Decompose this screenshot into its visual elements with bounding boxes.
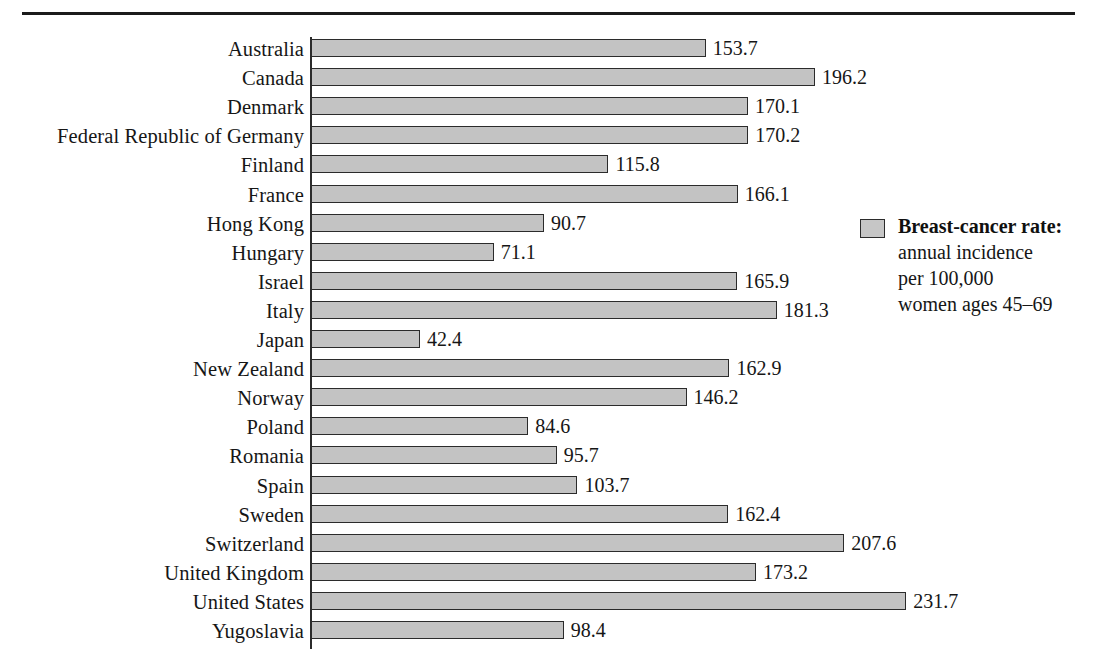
- bar-value-label: 90.7: [551, 212, 586, 234]
- bar-value-label: 196.2: [822, 66, 867, 88]
- bar: [311, 68, 815, 86]
- legend-line-1: annual incidence: [898, 241, 1033, 264]
- bar-row: Finland115.8: [0, 154, 1099, 183]
- bar: [311, 243, 494, 261]
- bar-row: Spain103.7: [0, 475, 1099, 504]
- bar-row: Federal Republic of Germany170.2: [0, 125, 1099, 154]
- category-label: Japan: [0, 329, 304, 352]
- category-label: Yugoslavia: [0, 620, 304, 643]
- bar-value-label: 173.2: [763, 561, 808, 583]
- bar-value-label: 115.8: [615, 153, 659, 175]
- bar: [311, 534, 844, 552]
- bar: [311, 126, 748, 144]
- category-label: Israel: [0, 271, 304, 294]
- bar-value-label: 98.4: [571, 619, 606, 641]
- bar-value-label: 71.1: [501, 241, 536, 263]
- bar-row: United States231.7: [0, 591, 1099, 620]
- legend-swatch: [860, 219, 885, 238]
- bar-value-label: 170.1: [755, 95, 800, 117]
- bar-row: Romania95.7: [0, 445, 1099, 474]
- bar-value-label: 170.2: [755, 124, 800, 146]
- bar: [311, 272, 737, 290]
- bar: [311, 185, 738, 203]
- bar-row: Japan42.4: [0, 329, 1099, 358]
- legend-title: Breast-cancer rate:: [898, 215, 1062, 238]
- bar-value-label: 181.3: [784, 299, 829, 321]
- bar-row: Australia153.7: [0, 38, 1099, 67]
- bar: [311, 301, 777, 319]
- bar: [311, 97, 748, 115]
- category-label: Australia: [0, 38, 304, 61]
- legend-line-2: per 100,000: [898, 267, 994, 290]
- bar-row: New Zealand162.9: [0, 358, 1099, 387]
- bar: [311, 155, 608, 173]
- category-label: Spain: [0, 475, 304, 498]
- bar-row: Poland84.6: [0, 416, 1099, 445]
- category-label: Canada: [0, 67, 304, 90]
- category-label: United States: [0, 591, 304, 614]
- bar-row: Canada196.2: [0, 67, 1099, 96]
- bar-value-label: 146.2: [694, 386, 739, 408]
- bar: [311, 563, 756, 581]
- bar-row: Norway146.2: [0, 387, 1099, 416]
- bar: [311, 476, 577, 494]
- category-label: Poland: [0, 416, 304, 439]
- bar: [311, 417, 528, 435]
- category-label: United Kingdom: [0, 562, 304, 585]
- category-label: Romania: [0, 445, 304, 468]
- bar: [311, 388, 687, 406]
- bar-value-label: 165.9: [744, 270, 789, 292]
- bar-value-label: 42.4: [427, 328, 462, 350]
- bar: [311, 214, 544, 232]
- category-label: Hungary: [0, 242, 304, 265]
- bar-value-label: 162.4: [735, 503, 780, 525]
- bar-value-label: 95.7: [564, 444, 599, 466]
- bar: [311, 621, 564, 639]
- category-label: Finland: [0, 154, 304, 177]
- bar: [311, 505, 728, 523]
- category-label: Denmark: [0, 96, 304, 119]
- bar-row: Yugoslavia98.4: [0, 620, 1099, 649]
- bar-value-label: 153.7: [713, 37, 758, 59]
- bar: [311, 592, 906, 610]
- bar-value-label: 103.7: [584, 474, 629, 496]
- category-label: New Zealand: [0, 358, 304, 381]
- bar: [311, 39, 706, 57]
- bar-row: United Kingdom173.2: [0, 562, 1099, 591]
- category-label: France: [0, 184, 304, 207]
- category-label: Federal Republic of Germany: [0, 125, 304, 148]
- bar: [311, 359, 729, 377]
- bar-value-label: 162.9: [736, 357, 781, 379]
- category-label: Norway: [0, 387, 304, 410]
- bar: [311, 446, 557, 464]
- category-label: Italy: [0, 300, 304, 323]
- bar-value-label: 166.1: [745, 183, 790, 205]
- category-label: Hong Kong: [0, 213, 304, 236]
- bar-row: France166.1: [0, 184, 1099, 213]
- category-label: Switzerland: [0, 533, 304, 556]
- bar-row: Sweden162.4: [0, 504, 1099, 533]
- bar-chart: Australia153.7Canada196.2Denmark170.1Fed…: [0, 0, 1099, 658]
- bar-value-label: 207.6: [851, 532, 896, 554]
- bar-value-label: 231.7: [913, 590, 958, 612]
- bar-value-label: 84.6: [535, 415, 570, 437]
- bar-row: Switzerland207.6: [0, 533, 1099, 562]
- legend-line-3: women ages 45–69: [898, 293, 1052, 316]
- bar: [311, 330, 420, 348]
- bar-row: Denmark170.1: [0, 96, 1099, 125]
- category-label: Sweden: [0, 504, 304, 527]
